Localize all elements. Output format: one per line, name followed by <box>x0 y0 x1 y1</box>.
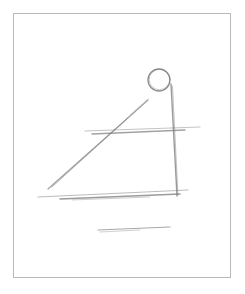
vertical-line <box>171 84 178 196</box>
pencil-sketch <box>0 0 245 294</box>
bottom-underline <box>98 227 170 232</box>
diagonal-line <box>48 99 148 189</box>
upper-horizontal-line <box>85 127 200 134</box>
circle-shape <box>148 69 170 91</box>
base-horizontal-line <box>38 190 188 200</box>
